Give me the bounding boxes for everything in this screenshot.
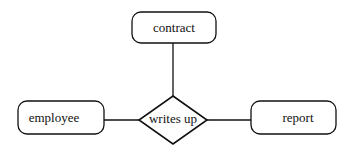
entity-report-label: report: [258, 110, 338, 126]
relationship-writes-up-label: writes up: [139, 111, 207, 127]
entity-contract-label: contract: [132, 20, 216, 36]
entity-employee-label: employee: [18, 110, 90, 126]
